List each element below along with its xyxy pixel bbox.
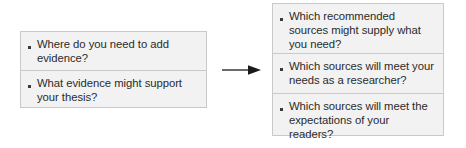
flow-diagram: Where do you need to add evidence? What … — [0, 0, 466, 148]
list-item: Which sources will meet the expectations… — [273, 93, 443, 137]
square-bullet-icon — [280, 15, 289, 24]
square-bullet-icon — [28, 43, 37, 52]
right-question-box: Which recommended sources might supply w… — [272, 3, 444, 136]
list-item-label: Which sources will meet the expectations… — [289, 99, 435, 141]
square-bullet-icon — [280, 105, 289, 114]
right-arrow-icon — [221, 62, 263, 78]
list-item-label: Which recommended sources might supply w… — [289, 9, 435, 51]
list-item: Which recommended sources might supply w… — [273, 4, 443, 53]
square-bullet-icon — [28, 82, 37, 91]
list-item-label: Where do you need to add evidence? — [37, 37, 198, 65]
list-item-label: What evidence might support your thesis? — [37, 76, 198, 104]
left-question-box: Where do you need to add evidence? What … — [20, 31, 207, 108]
list-item: Where do you need to add evidence? — [21, 32, 206, 70]
square-bullet-icon — [280, 65, 289, 74]
list-item: Which sources will meet your needs as a … — [273, 53, 443, 93]
list-item-label: Which sources will meet your needs as a … — [289, 59, 435, 87]
list-item: What evidence might support your thesis? — [21, 70, 206, 107]
